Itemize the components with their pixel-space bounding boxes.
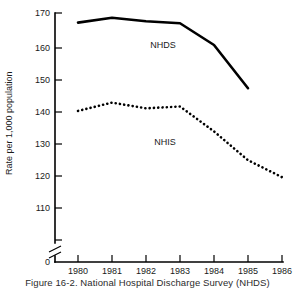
y-tick-label-170: 170 bbox=[35, 8, 50, 18]
series-label-nhis: NHIS bbox=[154, 137, 176, 147]
y-tick-label-0: 0 bbox=[45, 257, 50, 267]
series-line-nhis bbox=[78, 103, 282, 178]
series-label-nhds: NHDS bbox=[150, 40, 176, 50]
y-axis-ticks bbox=[55, 13, 62, 240]
y-tick-label-160: 160 bbox=[35, 43, 50, 53]
y-tick-label-140: 140 bbox=[35, 107, 50, 117]
y-axis-tick-labels: 170 160 150 140 130 120 110 0 bbox=[35, 8, 50, 267]
x-tick-label-1985: 1985 bbox=[238, 266, 258, 276]
series-line-nhds bbox=[78, 18, 248, 88]
line-chart: Rate per 1,000 population 170 160 150 bbox=[0, 0, 295, 289]
x-tick-label-1983: 1983 bbox=[170, 266, 190, 276]
figure-container: Rate per 1,000 population 170 160 150 bbox=[0, 0, 295, 289]
x-tick-label-1986: 1986 bbox=[272, 266, 292, 276]
x-tick-label-1984: 1984 bbox=[204, 266, 224, 276]
x-tick-label-1980: 1980 bbox=[68, 266, 88, 276]
x-tick-label-1982: 1982 bbox=[136, 266, 156, 276]
x-axis-tick-labels: 1980 1981 1982 1983 1984 1985 1986 bbox=[68, 266, 292, 276]
figure-caption: Figure 16-2. National Hospital Discharge… bbox=[0, 277, 295, 288]
y-axis-title: Rate per 1,000 population bbox=[4, 71, 14, 175]
x-tick-label-1981: 1981 bbox=[102, 266, 122, 276]
y-tick-label-110: 110 bbox=[36, 203, 50, 213]
y-tick-label-130: 130 bbox=[35, 139, 50, 149]
y-tick-label-120: 120 bbox=[35, 171, 50, 181]
x-axis-ticks bbox=[78, 255, 282, 262]
y-tick-label-150: 150 bbox=[35, 75, 50, 85]
